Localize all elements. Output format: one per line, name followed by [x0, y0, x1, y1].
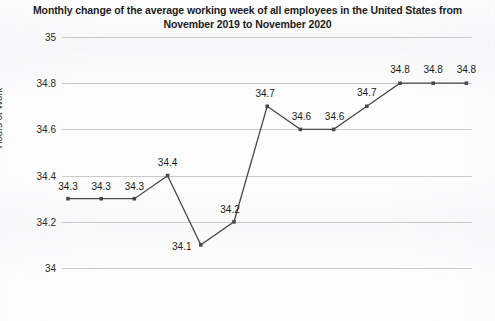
data-point-label: 34.6: [292, 111, 311, 122]
y-axis-tick-label: 34.8: [4, 78, 56, 89]
data-point-marker: [465, 81, 469, 85]
y-axis-tick-label: 34: [4, 263, 56, 274]
data-point-marker: [332, 128, 336, 132]
data-point-marker: [99, 197, 103, 201]
chart-container: Monthly change of the average working we…: [0, 0, 495, 321]
data-point-label: 34.8: [423, 64, 442, 75]
data-point-marker: [365, 105, 369, 109]
data-point-marker: [232, 220, 236, 224]
data-point-label: 34.7: [357, 87, 376, 98]
data-point-label: 34.1: [172, 240, 191, 251]
data-point-label: 34.3: [91, 180, 110, 191]
data-point-marker: [265, 105, 269, 109]
data-point-label: 34.7: [255, 88, 274, 99]
data-point-marker: [431, 81, 435, 85]
y-axis-tick-label: 35: [4, 32, 56, 43]
y-axis-tick-label: 34.4: [4, 170, 56, 181]
data-point-label: 34.8: [457, 64, 476, 75]
line-series: [62, 37, 472, 268]
plot-area: 3434.234.434.634.835 Nov '19Dec '19Jan '…: [62, 37, 472, 268]
data-point-label: 34.2: [220, 203, 239, 214]
gridline: [62, 268, 472, 269]
y-axis-tick-label: 34.6: [4, 124, 56, 135]
data-point-marker: [299, 128, 303, 132]
data-point-marker: [133, 197, 137, 201]
data-point-label: 34.4: [158, 156, 177, 167]
data-point-label: 34.3: [125, 180, 144, 191]
y-axis-title: Hours of Work: [0, 88, 4, 149]
data-point-marker: [398, 81, 402, 85]
data-point-label: 34.3: [58, 180, 77, 191]
data-point-marker: [166, 174, 170, 178]
data-point-marker: [66, 197, 70, 201]
chart-title: Monthly change of the average working we…: [30, 3, 465, 31]
data-point-label: 34.6: [325, 111, 344, 122]
y-axis-tick-label: 34.2: [4, 216, 56, 227]
data-point-label: 34.8: [390, 64, 409, 75]
data-point-marker: [199, 243, 203, 247]
